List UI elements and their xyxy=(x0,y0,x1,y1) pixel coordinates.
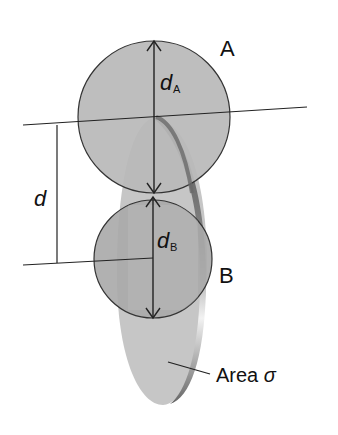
area-label: Area σ xyxy=(216,364,277,386)
diameter-b-subscript: B xyxy=(170,241,177,253)
sphere-a-label: A xyxy=(220,36,235,61)
collision-cross-section-diagram: A B d A d B d Area σ xyxy=(0,0,338,435)
diameter-a-subscript: A xyxy=(173,83,181,95)
diameter-a-label: d xyxy=(160,70,173,95)
sphere-b-label: B xyxy=(219,263,234,288)
diameter-b-label: d xyxy=(157,228,170,253)
separation-label: d xyxy=(34,186,47,211)
